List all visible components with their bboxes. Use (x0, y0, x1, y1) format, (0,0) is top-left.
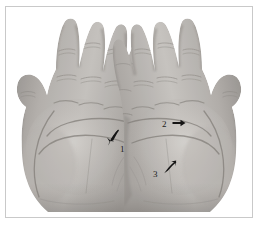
figure-page: 1 2 3 (0, 0, 259, 237)
marker-1-label: 1 (120, 145, 125, 154)
marker-2-label: 2 (162, 120, 167, 129)
figure-caption (8, 228, 251, 237)
figure-frame: 1 2 3 (5, 6, 253, 218)
marker-3-arrow-icon (163, 160, 177, 174)
hands-illustration (6, 7, 252, 217)
marker-2-arrow-icon (172, 119, 186, 127)
hands-photograph: 1 2 3 (6, 7, 252, 217)
marker-1-arrow-icon (104, 128, 120, 146)
marker-3-label: 3 (153, 170, 158, 179)
